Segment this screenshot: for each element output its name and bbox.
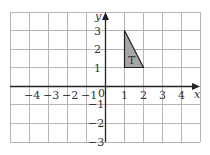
y-tick-label: 3 bbox=[94, 25, 101, 38]
x-tick-label: 4 bbox=[178, 89, 185, 102]
x-tick-label: −2 bbox=[62, 89, 78, 102]
triangle-t-label: T bbox=[128, 54, 136, 67]
x-tick-label: 1 bbox=[121, 89, 128, 102]
y-axis-arrow-icon bbox=[102, 12, 109, 20]
x-tick-label: 3 bbox=[159, 89, 166, 102]
y-axis-label: y bbox=[94, 10, 102, 23]
x-tick-label: −3 bbox=[43, 89, 59, 102]
x-tick-label: −4 bbox=[24, 89, 40, 102]
y-tick-label: −2 bbox=[88, 117, 104, 130]
y-tick-label: 1 bbox=[94, 62, 101, 75]
y-tick-label: 2 bbox=[94, 43, 101, 56]
x-axis-label: x bbox=[194, 88, 201, 101]
y-tick-label: −1 bbox=[88, 98, 104, 111]
coordinate-grid: T x y 0 −4 −3 −2 −1 1 2 3 4 3 2 1 −1 −2 … bbox=[0, 0, 210, 155]
x-tick-label: 2 bbox=[140, 89, 147, 102]
y-tick-label: −3 bbox=[88, 136, 104, 149]
